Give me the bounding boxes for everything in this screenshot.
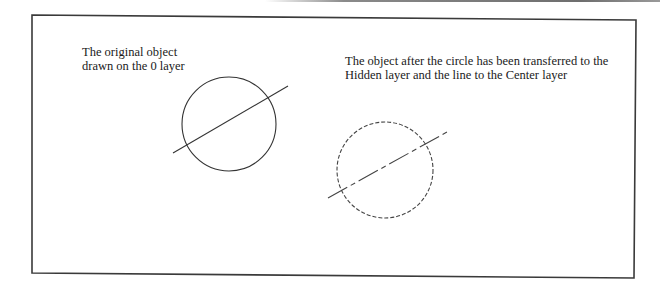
transferred-object-caption: The object after the circle has been tra… bbox=[345, 54, 608, 82]
original-line bbox=[173, 86, 288, 153]
drawing-canvas bbox=[0, 0, 665, 287]
original-object-caption: The original object drawn on the 0 layer bbox=[82, 45, 185, 73]
original-circle bbox=[182, 77, 276, 171]
original-object bbox=[173, 77, 288, 171]
caption-line: Hidden layer and the line to the Center … bbox=[345, 68, 608, 82]
hidden-layer-circle bbox=[337, 122, 433, 218]
transferred-object bbox=[328, 122, 447, 218]
caption-line: drawn on the 0 layer bbox=[82, 59, 185, 73]
caption-line: The object after the circle has been tra… bbox=[345, 54, 608, 68]
caption-line: The original object bbox=[82, 45, 185, 59]
